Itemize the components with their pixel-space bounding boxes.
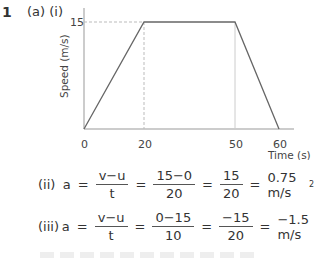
x-axis-label: Time (s) [267, 149, 311, 160]
equation-iii: (iii) a= v−ut = 0−1510 = −1520 = −1.5 m/… [38, 210, 314, 243]
cut-off-text-line [40, 252, 260, 258]
x-tick-0: 0 [81, 138, 88, 151]
y-axis-label: Speed (m/s) [58, 34, 70, 98]
x-tick-50: 50 [229, 138, 243, 151]
equation-ii: (ii) a= v−ut = 15−020 = 1520 = 0.75 m/s2 [38, 168, 314, 201]
x-tick-20: 20 [138, 138, 152, 151]
speed-line [84, 22, 279, 129]
speed-time-graph: 15 0 20 50 60 Time (s) Speed (m/s) [0, 0, 314, 160]
y-tick-15: 15 [70, 16, 84, 29]
